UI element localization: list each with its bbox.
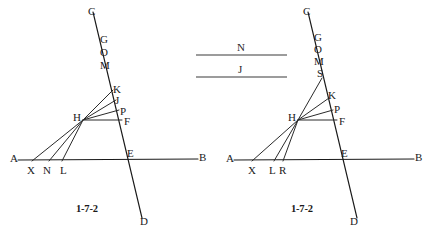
figure-left-point-label-a: A	[10, 153, 18, 164]
figure-left-segment-HN	[49, 120, 83, 161]
figure-left-caption: 1-7-2	[76, 203, 98, 214]
figure-right-point-label-p: P	[334, 104, 340, 115]
figure-left-point-label-l: L	[60, 165, 67, 176]
figure-left-point-label-b: B	[199, 152, 206, 163]
figure-right-point-label-s: S	[317, 68, 323, 79]
figure-left-point-label-j: J	[115, 95, 119, 106]
figure-left-point-label-g: G	[100, 34, 108, 45]
figure-right-caption: 1-7-2	[291, 203, 313, 214]
figure-left-line-AB	[18, 159, 198, 160]
figure-canvas: CGOMKJPHFAXNLEBD1-7-2CGOMSKPHFAXLREBD1-7…	[0, 0, 433, 243]
figure-left-point-label-d: D	[140, 216, 148, 227]
figure-right-point-label-x: X	[248, 165, 256, 176]
figure-right-point-label-h: H	[288, 112, 296, 123]
figure-left-point-label-m: M	[100, 60, 110, 71]
figure-right-point-label-d: D	[350, 216, 358, 227]
figure-right-segment-HL	[274, 120, 298, 161]
figure-left-point-label-x: X	[27, 165, 35, 176]
figure-right-point-label-c: C	[303, 6, 310, 17]
legend-label-n: N	[237, 41, 245, 53]
figure-right-segment-HX	[252, 120, 298, 161]
figure-right-point-label-a: A	[226, 153, 234, 164]
figure-right-point-label-f: F	[339, 116, 345, 127]
figure-left-point-label-o: O	[100, 47, 108, 58]
figure-right-point-label-m: M	[314, 56, 324, 67]
figure-left-segment-HL	[62, 120, 83, 161]
figure-right-point-label-g: G	[314, 32, 322, 43]
figure-right-point-label-o: O	[314, 44, 322, 55]
figure-left-point-label-n: N	[43, 165, 51, 176]
figure-right-point-label-e: E	[341, 148, 348, 159]
figure-right-point-label-b: B	[415, 152, 422, 163]
figure-right-point-label-k: K	[328, 90, 336, 101]
figure-right-point-label-r: R	[279, 165, 286, 176]
geometry-svg	[0, 0, 433, 243]
figure-right-point-label-l: L	[269, 165, 276, 176]
figure-left-point-label-f: F	[124, 116, 130, 127]
legend-label-j: J	[238, 63, 242, 75]
figure-left-point-label-c: C	[88, 6, 95, 17]
figure-right-segment-HK	[298, 98, 329, 120]
figure-left-point-label-e: E	[127, 148, 134, 159]
figure-left-point-label-h: H	[73, 112, 81, 123]
figure-right-line-AB	[234, 159, 414, 160]
figure-left-segment-HX	[32, 120, 83, 161]
